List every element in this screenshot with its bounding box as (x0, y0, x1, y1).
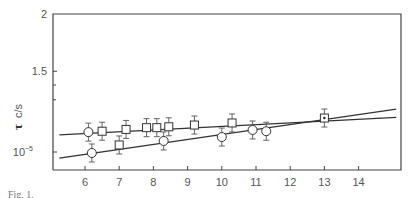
circle-data-point (217, 128, 226, 146)
fit-lines (59, 109, 396, 158)
figure-caption: Fig. 1. (8, 189, 34, 198)
x-tick-label: 13 (318, 176, 330, 188)
x-tick-label: 11 (250, 176, 261, 188)
square-data-point (98, 122, 106, 140)
x-tick-label: 14 (352, 176, 364, 188)
plot-frame (53, 14, 401, 170)
square-marker (228, 119, 236, 127)
circle-marker (159, 136, 168, 145)
x-tick-label: 12 (284, 176, 296, 188)
x-tick-label: 10 (216, 176, 228, 188)
data-points (84, 109, 328, 162)
y-axis-label: τ c/s (10, 103, 25, 130)
circle-data-point (262, 122, 271, 140)
square-data-point (115, 136, 123, 154)
circle-data-point (84, 123, 93, 141)
square-data-point (153, 119, 161, 137)
plot-border (53, 14, 401, 170)
circle-data-point (159, 132, 168, 150)
x-tick-label: 6 (82, 176, 88, 188)
square-marker (153, 124, 161, 132)
square-data-point (165, 118, 173, 136)
circle-marker (87, 148, 96, 157)
circle-data-point (87, 144, 96, 162)
square-marker (115, 141, 123, 149)
x-tick-label: 9 (185, 176, 191, 188)
chart: 67891011121314 10−51.52 τ c/s (0, 0, 413, 198)
y-axis-label-symbol: τ (10, 124, 25, 130)
square-marker (190, 121, 198, 129)
combined-point-dot (323, 117, 325, 119)
circle-data-point (248, 121, 257, 139)
square-data-point (228, 114, 236, 132)
y-tick-label: 1.5 (32, 65, 47, 77)
y-axis: 10−51.52 (13, 8, 57, 158)
y-axis-label-units: c/s (12, 103, 24, 118)
square-data-point (143, 119, 151, 137)
circle-marker (217, 133, 226, 142)
square-data-point (190, 116, 198, 134)
square-marker (143, 124, 151, 132)
square-marker (122, 125, 130, 133)
circle-marker (262, 127, 271, 136)
x-tick-label: 7 (116, 176, 122, 188)
square-data-point (122, 120, 130, 138)
x-axis: 67891011121314 (82, 166, 365, 188)
circle-marker (84, 128, 93, 137)
lower-fit-line (59, 109, 396, 158)
x-tick-label: 8 (150, 176, 156, 188)
square-marker (165, 123, 173, 131)
square-marker (98, 127, 106, 135)
circle-marker (248, 125, 257, 134)
y-tick-label: 2 (41, 8, 47, 20)
y-tick-label: 10−5 (13, 145, 33, 158)
